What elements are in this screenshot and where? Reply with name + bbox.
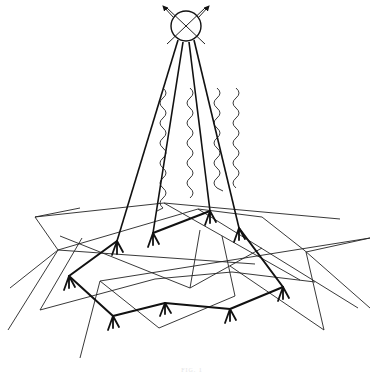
wavy-signals [157,88,239,211]
antenna-nodes [64,211,289,330]
figure-caption: FIG. 1 [0,367,384,373]
antenna-node-icon [108,316,119,330]
diagram-figure [0,0,384,378]
antenna-node-icon [225,309,236,323]
antenna-node-icon [160,303,171,316]
antenna-node-icon [234,228,245,242]
antenna-node-icon [64,276,75,290]
antenna-node-icon [148,233,159,247]
terrain-mesh [8,203,370,358]
satellite-icon [163,6,209,44]
